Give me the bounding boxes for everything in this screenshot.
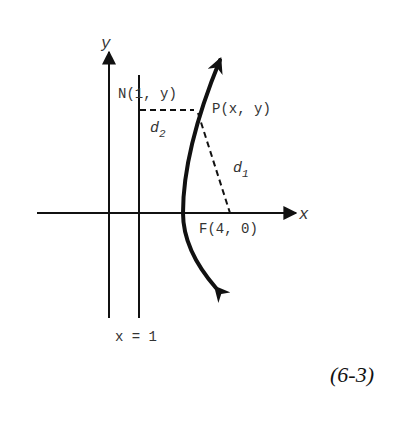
y-axis-label: y [100,35,111,53]
parabola-diagram: y x N(1, y) P(x, y) F(4, 0) d2 d1 x = 1 … [0,0,415,423]
directrix-label: x = 1 [115,329,157,345]
d2-label: d2 [150,120,166,140]
x-axis-label: x [298,206,309,224]
d1-dashed-line [198,113,230,213]
point-n-label: N(1, y) [118,86,177,102]
point-f-label: F(4, 0) [199,221,258,237]
parabola-curve [183,60,220,288]
d1-label: d1 [233,160,249,180]
point-p-label: P(x, y) [212,101,271,117]
equation-tag: (6-3) [330,362,374,387]
